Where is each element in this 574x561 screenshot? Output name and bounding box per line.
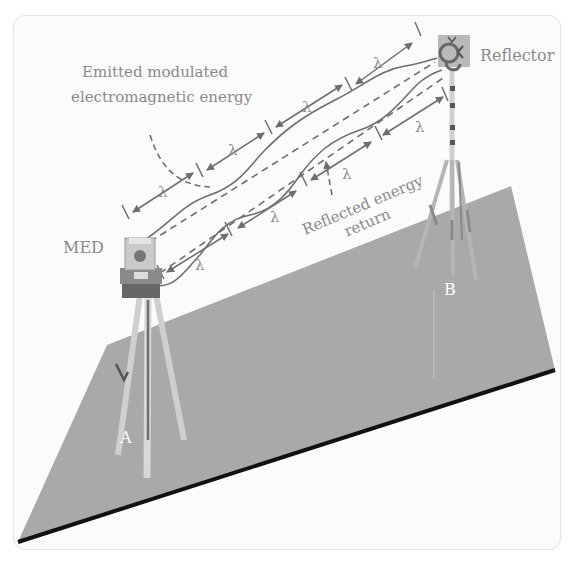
svg-text:λ: λ — [158, 183, 168, 201]
emitted-label-line2: electromagnetic energy — [71, 88, 253, 106]
svg-text:λ: λ — [415, 118, 425, 136]
med-label: MED — [63, 238, 104, 257]
svg-text:λ: λ — [373, 54, 383, 72]
svg-text:λ: λ — [270, 208, 280, 226]
reflector-label: Reflector — [480, 46, 555, 65]
emitted-label-line1: Emitted modulated — [82, 63, 228, 81]
svg-text:λ: λ — [302, 98, 312, 116]
emitted-pointer — [150, 135, 210, 187]
svg-text:λ: λ — [228, 141, 238, 159]
svg-text:λ: λ — [342, 165, 352, 183]
point-b-label: B — [444, 280, 456, 299]
svg-text:λ: λ — [195, 256, 205, 274]
emitted-wave — [140, 58, 437, 243]
point-a-label: A — [119, 428, 132, 447]
edm-diagram: λ λ λ λ λ λ λ λ — [0, 0, 574, 561]
